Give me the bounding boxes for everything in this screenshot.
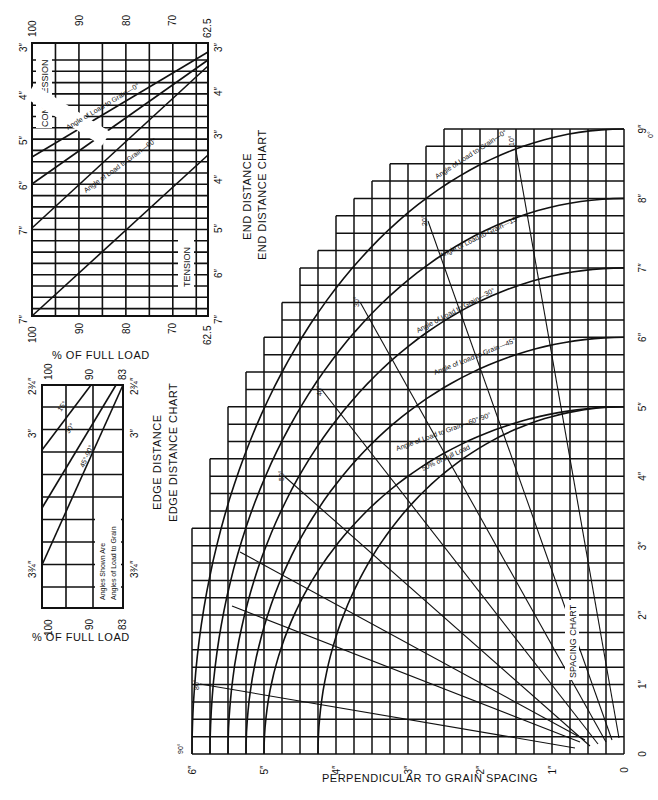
end-top-ticks: 100 90 80 70 62.5 (27, 14, 213, 38)
edge-title: EDGE DISTANCE CHART (167, 383, 179, 522)
tick: 83 (117, 618, 128, 630)
curve-label-30: Angle of Load to Grain—30° (415, 286, 496, 334)
tick: 7″ (18, 314, 29, 324)
tick: 3″ (213, 129, 224, 139)
edge-subtitle: EDGE DISTANCE (151, 414, 163, 510)
angle-label-10: 10° (508, 135, 515, 146)
tick: 100 (27, 326, 38, 343)
y-tick: 1″ (637, 680, 648, 690)
tick: 83 (117, 368, 128, 380)
y-tick: 3″ (637, 541, 648, 551)
spacing-title: SPACING CHART (568, 604, 578, 678)
end-xlabel-text: % OF FULL LOAD (52, 349, 150, 361)
angle-ray (200, 684, 575, 748)
y-tick: 6″ (637, 332, 648, 342)
tick: 5″ (213, 223, 224, 233)
tick: 5″ (18, 135, 29, 145)
tick: 3″ (213, 42, 224, 52)
angle-ray (284, 476, 590, 746)
tick: 6″ (213, 268, 224, 278)
tick: 3¾″ (27, 560, 38, 578)
tick: 90 (84, 368, 95, 380)
tick: 7″ (18, 225, 29, 235)
y-tick: 8″ (637, 193, 648, 203)
tick: 3″ (27, 428, 38, 438)
tick: 62.5 (202, 18, 213, 38)
spacing-xlabel: PERPENDICULAR TO GRAIN SPACING (322, 772, 538, 784)
edge-45-label: 45°-90° (79, 444, 95, 469)
edge-distance-labels: 100 90 83 100 90 83 2¾″ 3″ 3¾″ 2¾″ 3″ 3¾… (27, 363, 179, 643)
end-right-ticks: 3″ 4″ 3″ 4″ 5″ 6″ 7″ (213, 42, 224, 324)
tick: 90 (74, 14, 85, 26)
tick: 4″ (213, 86, 224, 96)
y-tick: 0 (637, 751, 648, 757)
y-tick: 2″ (637, 610, 648, 620)
tick: 3″ (129, 428, 140, 438)
tick: 100 (43, 363, 54, 380)
chart-canvas: 100 90 80 70 62.5 100 90 80 70 62.5 % OF… (0, 0, 658, 800)
tick: 2¾″ (27, 377, 38, 395)
angle-label-50: 50° (278, 470, 285, 481)
end-line-tension (32, 155, 208, 316)
tick: 90 (84, 618, 95, 630)
angle-ray (232, 606, 580, 742)
y-tick: 5″ (637, 402, 648, 412)
angle-label-30: 30° (353, 296, 360, 307)
angle-label-0: 0° (647, 131, 654, 138)
spacing-y-ticks: 01″2″3″4″5″6″7″8″9″ (637, 124, 648, 757)
angle-label-90: 90° (177, 743, 184, 754)
x-tick: 1″ (547, 765, 558, 775)
end-bottom-ticks: 100 90 80 70 62.5 (27, 322, 213, 345)
tick: 90 (74, 322, 85, 334)
angle-ray (428, 221, 612, 740)
angle-ray (322, 390, 598, 744)
y-tick: 4″ (637, 471, 648, 481)
tick: 100 (27, 20, 38, 37)
end-line-90-label: Angle of Load to Grain—90° (82, 137, 158, 195)
tick: 80 (121, 14, 132, 26)
y-tick: 7″ (637, 263, 648, 273)
angle-label-40: 40° (316, 385, 323, 396)
edge-note-line2: Angles of Load to Grain (110, 526, 118, 600)
tick: 6″ (18, 180, 29, 190)
x-tick: 5″ (259, 765, 270, 775)
tick: 3″ (18, 42, 29, 52)
x-tick: 6″ (187, 765, 198, 775)
edge-note-line1: Angles Shown Are (99, 543, 107, 600)
end-title: END DISTANCE CHART (256, 129, 268, 260)
angle-label-20: 20° (421, 215, 428, 226)
end-subtitle: END DISTANCE (241, 153, 253, 240)
tick: 70 (167, 14, 178, 26)
tick: 70 (167, 322, 178, 334)
tick: 3¾″ (129, 560, 140, 578)
tick: 4″ (213, 174, 224, 184)
tick: 80 (121, 322, 132, 334)
tick: 7″ (213, 314, 224, 324)
tension-label: TENSION (182, 247, 192, 287)
edge-xlabel: % OF FULL LOAD (32, 631, 130, 643)
edge-line-30 (42, 385, 116, 508)
tick: 62.5 (202, 325, 213, 345)
end-line-90deg (32, 66, 208, 228)
tick: 2¾″ (129, 377, 140, 395)
angle-label-80: 80° (193, 679, 200, 690)
x-tick: 0 (619, 767, 630, 773)
end-left-ticks: 3″ 4″ 5″ 6″ 7″ 7″ (18, 42, 29, 324)
